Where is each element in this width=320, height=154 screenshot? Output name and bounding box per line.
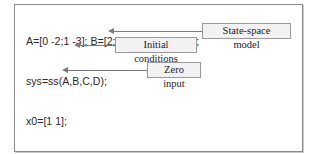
code-line: x0=[1 1]; [26,115,201,128]
arrow-left-icon [67,70,147,71]
arrow-left-icon [113,31,203,32]
callout-initial-conditions: Initial conditions [115,37,197,53]
callout-zero-input: Zero input [147,62,201,78]
callout-state-space-model: State-space model [202,23,291,39]
arrow-left-icon [79,45,115,46]
